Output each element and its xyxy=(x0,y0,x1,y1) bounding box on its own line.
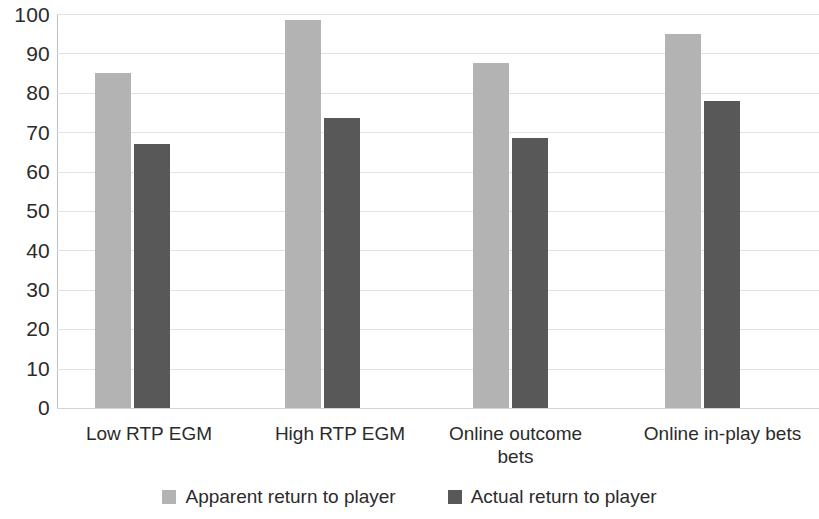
y-tick-label: 100 xyxy=(2,4,50,25)
y-tick-label: 90 xyxy=(2,43,50,64)
gridline xyxy=(57,14,819,15)
plot-area xyxy=(57,14,819,408)
y-tick-label: 20 xyxy=(2,318,50,339)
gridline xyxy=(57,93,819,94)
y-tick-label: 40 xyxy=(2,240,50,261)
category-label-2: Online outcome bets xyxy=(438,422,593,468)
category-label-1: High RTP EGM xyxy=(248,422,432,445)
legend-label: Actual return to player xyxy=(471,487,657,506)
y-tick-label: 80 xyxy=(2,82,50,103)
bar-apparent-1 xyxy=(285,20,321,408)
bar-actual-1 xyxy=(324,118,360,408)
bar-apparent-0 xyxy=(95,73,131,408)
bar-chart: 100 90 80 70 60 50 40 30 20 10 0 Low R xyxy=(0,0,819,519)
bar-apparent-2 xyxy=(473,63,509,408)
y-tick-label: 30 xyxy=(2,279,50,300)
y-tick-label: 0 xyxy=(2,397,50,418)
legend-label: Apparent return to player xyxy=(185,487,395,506)
legend-swatch-icon xyxy=(448,490,462,504)
y-tick-label: 10 xyxy=(2,358,50,379)
bar-actual-3 xyxy=(704,101,740,408)
gridline-baseline xyxy=(57,408,819,409)
legend-item-actual: Actual return to player xyxy=(448,487,657,506)
bar-apparent-3 xyxy=(665,34,701,408)
y-tick-label: 60 xyxy=(2,161,50,182)
y-axis-labels: 100 90 80 70 60 50 40 30 20 10 0 xyxy=(0,0,50,519)
bar-actual-2 xyxy=(512,138,548,408)
y-tick-label: 70 xyxy=(2,122,50,143)
category-label-0: Low RTP EGM xyxy=(57,422,241,445)
y-tick-label: 50 xyxy=(2,200,50,221)
bar-actual-0 xyxy=(134,144,170,408)
category-label-3: Online in-play bets xyxy=(626,422,819,445)
legend-swatch-icon xyxy=(162,490,176,504)
gridline xyxy=(57,53,819,54)
chart-legend: Apparent return to player Actual return … xyxy=(0,487,819,506)
legend-item-apparent: Apparent return to player xyxy=(162,487,395,506)
